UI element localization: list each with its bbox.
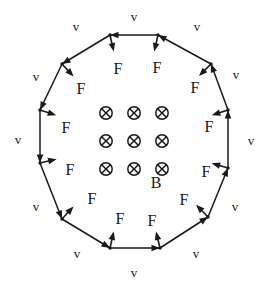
velocity-label: v bbox=[232, 200, 239, 213]
physics-diagram: vvvvvvvvvvvvFFFFFFFFFFFFB bbox=[0, 0, 265, 291]
velocity-arrow-head bbox=[158, 35, 167, 42]
force-label: F bbox=[191, 80, 200, 96]
force-label: F bbox=[114, 61, 123, 77]
field-into-page-symbol bbox=[100, 135, 112, 147]
polygon-edge bbox=[40, 163, 62, 219]
velocity-arrow-head bbox=[199, 217, 208, 224]
velocity-label: v bbox=[33, 70, 40, 83]
force-label: F bbox=[116, 211, 125, 227]
vertex-dot bbox=[38, 161, 41, 164]
velocity-arrow-head bbox=[62, 57, 71, 64]
force-label: F bbox=[88, 191, 97, 207]
vertex-dot bbox=[209, 62, 212, 65]
velocity-label: v bbox=[131, 10, 138, 23]
force-arrow-head bbox=[47, 110, 56, 116]
force-label: F bbox=[153, 60, 162, 76]
vertex-dot bbox=[108, 33, 111, 36]
force-arrow-head bbox=[109, 231, 115, 240]
magnetic-field-grid bbox=[100, 107, 168, 175]
force-arrow-head bbox=[153, 43, 159, 52]
velocity-label: v bbox=[194, 20, 201, 33]
vertex-dot bbox=[60, 62, 63, 65]
field-into-page-symbol bbox=[128, 135, 140, 147]
field-into-page-symbol bbox=[100, 107, 112, 119]
velocity-label: v bbox=[74, 247, 81, 260]
force-arrow-head bbox=[48, 158, 57, 164]
velocity-label: v bbox=[73, 20, 80, 33]
velocity-label: v bbox=[193, 247, 200, 260]
vertex-dot bbox=[60, 217, 63, 220]
vertex-dot bbox=[226, 166, 229, 169]
force-label: F bbox=[202, 164, 211, 180]
velocity-label: v bbox=[131, 266, 138, 279]
field-into-page-symbol bbox=[100, 163, 112, 175]
force-label: F bbox=[66, 162, 75, 178]
polygon-edge bbox=[158, 35, 211, 64]
field-into-page-symbol bbox=[128, 107, 140, 119]
vertex-dot bbox=[38, 108, 41, 111]
field-into-page-symbol bbox=[156, 107, 168, 119]
force-arrow-head bbox=[212, 162, 221, 168]
vertex-dot bbox=[108, 246, 111, 249]
force-arrow-head bbox=[212, 110, 221, 116]
vertex-dot bbox=[158, 246, 161, 249]
force-label: F bbox=[148, 213, 157, 229]
velocity-label: v bbox=[233, 68, 240, 81]
velocity-arrow-head bbox=[101, 241, 110, 248]
vertex-dot bbox=[226, 108, 229, 111]
velocity-label: v bbox=[248, 134, 255, 147]
force-arrow-head bbox=[109, 43, 115, 52]
force-arrow-head bbox=[155, 231, 161, 240]
polygon-edge bbox=[160, 217, 208, 248]
field-into-page-symbol bbox=[128, 163, 140, 175]
force-label: F bbox=[77, 81, 86, 97]
force-label: F bbox=[180, 192, 189, 208]
velocity-label: v bbox=[15, 133, 22, 146]
field-into-page-symbol bbox=[156, 135, 168, 147]
vertex-dot bbox=[206, 215, 209, 218]
force-label: F bbox=[62, 120, 71, 136]
velocity-label: v bbox=[33, 200, 40, 213]
magnetic-field-label: B bbox=[151, 175, 162, 191]
diagram-canvas bbox=[0, 0, 265, 291]
vertex-dot bbox=[156, 33, 159, 36]
force-label: F bbox=[205, 119, 214, 135]
